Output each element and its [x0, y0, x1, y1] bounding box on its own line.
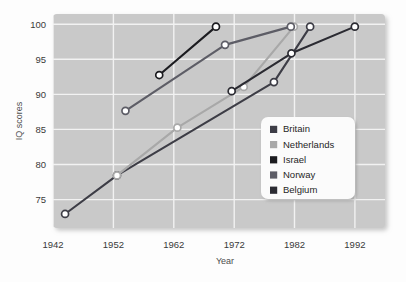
legend-swatch-israel — [270, 156, 277, 163]
y-tick-label-85: 85 — [35, 124, 46, 135]
data-point-israel-1 — [212, 23, 219, 30]
legend-label-norway: Norway — [283, 169, 315, 180]
data-point-norway-0 — [122, 107, 129, 114]
data-point-britain-0 — [62, 210, 69, 217]
legend-swatch-britain — [270, 126, 277, 133]
legend-label-belgium: Belgium — [283, 184, 317, 195]
chart-legend: BritainNetherlandsIsraelNorwayBelgium — [261, 117, 355, 199]
data-point-norway-2 — [287, 23, 294, 30]
x-tick-label-1992: 1992 — [344, 239, 365, 250]
data-point-belgium-1 — [288, 50, 295, 57]
data-point-israel-0 — [156, 72, 163, 79]
legend-swatch-belgium — [270, 187, 277, 194]
y-tick-label-100: 100 — [30, 19, 46, 30]
y-tick-label-80: 80 — [35, 159, 46, 170]
x-axis-title: Year — [216, 256, 234, 266]
data-point-britain-3 — [307, 23, 314, 30]
x-tick-label-1962: 1962 — [163, 239, 184, 250]
data-point-belgium-0 — [228, 88, 235, 95]
iq-scores-line-chart: 75 80 85 90 95 100 1942 1952 1962 1972 1… — [0, 0, 406, 282]
x-tick-label-1952: 1952 — [103, 239, 124, 250]
data-point-norway-1 — [222, 41, 229, 48]
legend-label-britain: Britain — [283, 123, 310, 134]
data-point-netherlands-0 — [113, 172, 120, 179]
legend-swatch-norway — [270, 171, 277, 178]
y-axis-title: IQ scores — [14, 101, 24, 140]
data-point-britain-2 — [270, 79, 277, 86]
x-tick-label-1982: 1982 — [284, 239, 305, 250]
x-tick-label-1942: 1942 — [42, 239, 63, 250]
y-tick-label-90: 90 — [35, 89, 46, 100]
y-tick-label-95: 95 — [35, 54, 46, 65]
legend-swatch-netherlands — [270, 141, 277, 148]
y-tick-label-75: 75 — [35, 194, 46, 205]
data-point-belgium-2 — [351, 23, 358, 30]
legend-label-netherlands: Netherlands — [283, 139, 334, 150]
legend-label-israel: Israel — [283, 154, 306, 165]
data-point-netherlands-1 — [174, 124, 181, 131]
x-tick-label-1972: 1972 — [224, 239, 245, 250]
chart-figure: 75 80 85 90 95 100 1942 1952 1962 1972 1… — [0, 0, 406, 282]
